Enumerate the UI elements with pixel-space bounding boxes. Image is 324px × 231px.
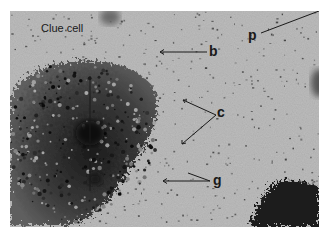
cell-granule (54, 101, 57, 104)
bacterium-speck (166, 163, 168, 164)
cell-granule (137, 119, 139, 121)
cell-granule (74, 205, 78, 209)
bacterium-speck (145, 63, 146, 65)
bacterium-speck (91, 15, 92, 16)
cell-granule (139, 115, 141, 117)
bacterium-speck (223, 197, 224, 198)
bacterium-speck (173, 42, 174, 44)
bacterium-speck (15, 49, 17, 50)
bacterium-speck (166, 221, 168, 223)
bacterium-speck (298, 83, 299, 85)
bacterium-speck (199, 58, 201, 59)
bacterium-speck (314, 60, 315, 62)
bacterium-speck (64, 16, 65, 18)
micrograph: Clue cell b p c g (10, 11, 319, 227)
cell-granule (107, 81, 110, 84)
bacterium-speck (239, 84, 241, 85)
bacterium-speck (212, 152, 214, 154)
cell-granule (112, 175, 115, 178)
bacterium-speck (228, 144, 230, 146)
cell-granule (56, 169, 58, 171)
bacterium-speck (192, 48, 194, 50)
cell-granule (49, 65, 52, 68)
cell-granule (58, 186, 59, 187)
cell-granule (118, 191, 120, 193)
bacterium-speck (174, 100, 176, 101)
bacterium-speck (226, 217, 228, 218)
bacterium-speck (316, 31, 317, 33)
bacterium-speck (221, 34, 222, 36)
bacterium-speck (298, 136, 300, 137)
bacterium-speck (166, 68, 167, 69)
bacterium-speck (246, 80, 248, 81)
bacterium-speck (212, 28, 214, 30)
cell-granule (143, 150, 145, 152)
cell-granule (103, 118, 105, 120)
cell-granule (50, 191, 53, 194)
cell-granule (56, 162, 59, 165)
bacterium-speck (210, 156, 211, 158)
bacterium-speck (210, 127, 211, 129)
cell-granule (121, 180, 124, 183)
bacterium-speck (300, 32, 302, 34)
bacterium-speck (94, 40, 96, 41)
bacterium-speck (231, 173, 233, 175)
bacterium-speck (156, 65, 157, 67)
bacterium-speck (124, 206, 126, 207)
bacterium-speck (95, 42, 97, 43)
cell-granule (81, 199, 84, 202)
bacterium-speck (163, 94, 164, 95)
cell-granule (132, 125, 134, 127)
bacterium-speck (193, 197, 194, 198)
bacterium-speck (60, 52, 62, 54)
bacterium-speck (249, 189, 251, 190)
cell-granule (143, 111, 144, 112)
cell-granule (93, 98, 97, 102)
cell-granule (29, 85, 32, 88)
bacterium-speck (272, 34, 274, 36)
cell-granule (49, 81, 51, 83)
cell-granule (59, 80, 60, 81)
bacterium-speck (257, 69, 258, 71)
cell-granule (145, 123, 148, 126)
cell-granule (89, 200, 91, 202)
bacterium-speck (120, 24, 122, 25)
bacterium-speck (91, 17, 93, 19)
cell-granule (133, 113, 135, 115)
bacterium-speck (198, 14, 200, 16)
bacterium-speck (205, 67, 207, 69)
cell-granule (62, 143, 64, 145)
cell-granule (96, 209, 98, 211)
bacterium-speck (231, 216, 233, 217)
cell-granule (37, 192, 41, 196)
bacterium-speck (91, 31, 92, 32)
bacterium-speck (155, 40, 157, 41)
cell-granule (76, 105, 78, 107)
cell-granule (25, 154, 27, 156)
cell-granule (87, 175, 88, 176)
bacterium-speck (201, 97, 203, 98)
cell-granule (18, 153, 21, 156)
bacterium-speck (237, 48, 238, 49)
cell-granule (70, 202, 73, 205)
cell-granule (116, 120, 119, 123)
cell-granule (116, 116, 119, 119)
bacterium-speck (161, 63, 162, 65)
bacterium-speck (181, 29, 182, 30)
cell-granule (86, 80, 88, 82)
cell-granule (92, 206, 95, 209)
cell-granule (46, 179, 50, 183)
cell-granule (126, 138, 128, 140)
cell-granule (138, 147, 142, 151)
cell-granule (110, 94, 113, 97)
bacterium-speck (296, 79, 297, 81)
cell-granule (45, 164, 47, 166)
cell-granule (137, 169, 139, 171)
cell-granule (22, 180, 26, 184)
cell-granule (103, 124, 107, 128)
bacterium-speck (293, 148, 295, 150)
bacterium-speck (82, 59, 83, 61)
bacterium-speck (158, 192, 159, 193)
bacterium-speck (293, 70, 294, 71)
bacterium-speck (152, 26, 154, 28)
